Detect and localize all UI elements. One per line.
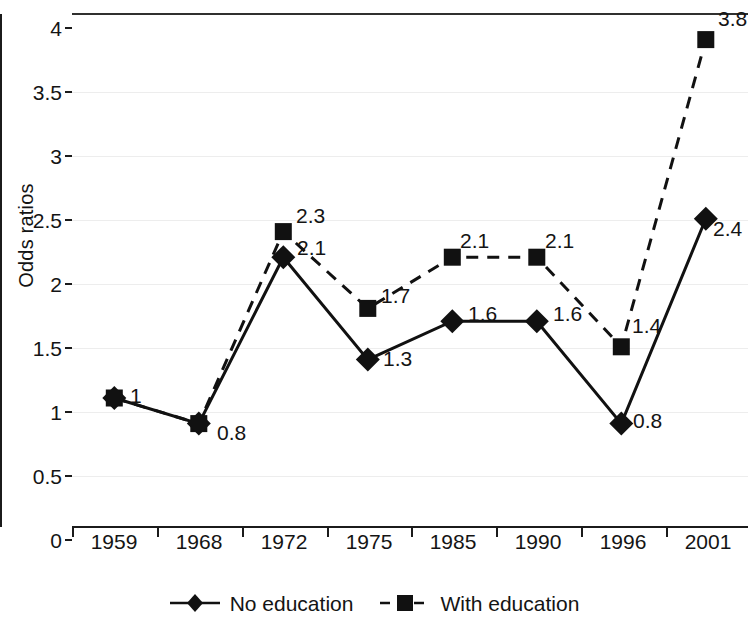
point-label-with-education-1975: 1.7 xyxy=(381,285,410,306)
point-label-with-education-1990: 2.1 xyxy=(545,230,574,251)
x-tick-mark-7 xyxy=(666,527,668,537)
legend-item-no-education[interactable]: No education xyxy=(169,592,354,614)
y-tick-label-1_5: 1.5 xyxy=(33,338,62,359)
y-tick-label-2_5: 2.5 xyxy=(33,210,62,231)
y-tick-label-0_5: 0.5 xyxy=(33,466,62,487)
point-label-no-education-1959: 1 xyxy=(130,385,142,406)
gridline-3_5 xyxy=(72,92,748,93)
y-tick-label-3: 3 xyxy=(50,146,62,167)
x-tick-mark-2 xyxy=(242,527,244,537)
x-tick-label-1959: 1959 xyxy=(91,531,138,552)
gridline-3 xyxy=(72,156,748,157)
x-tick-label-1990: 1990 xyxy=(515,531,562,552)
x-tick-label-1996: 1996 xyxy=(600,531,647,552)
legend-label-no-education: No education xyxy=(230,593,354,614)
x-tick-mark-5 xyxy=(496,527,498,537)
point-label-no-education-1972: 2.1 xyxy=(297,237,326,258)
gridline-0_5 xyxy=(72,476,748,477)
y-tick-label-2: 2 xyxy=(50,274,62,295)
point-label-with-education-1972: 2.3 xyxy=(296,205,325,226)
point-label-with-education-1996: 1.4 xyxy=(632,315,661,336)
point-label-no-education-1985: 1.6 xyxy=(468,303,497,324)
x-tick-label-1975: 1975 xyxy=(346,531,393,552)
point-label-with-education-1985: 2.1 xyxy=(460,230,489,251)
y-tick-label-3_5: 3.5 xyxy=(33,82,62,103)
x-tick-mark-0 xyxy=(72,527,74,537)
point-label-no-education-1975: 1.3 xyxy=(383,348,412,369)
gridline-2_5 xyxy=(72,220,748,221)
point-label-no-education-1990: 1.6 xyxy=(553,303,582,324)
x-tick-label-1985: 1985 xyxy=(430,531,477,552)
plot-area: 4 3.5 3 2.5 2 1.5 1 0.5 xyxy=(72,14,748,527)
y-tick-label-4: 4 xyxy=(50,18,62,39)
y-axis-line xyxy=(0,14,2,527)
x-tick-label-2001: 2001 xyxy=(685,531,732,552)
x-tick-mark-1 xyxy=(157,527,159,537)
x-tick-label-1972: 1972 xyxy=(261,531,308,552)
point-label-no-education-1968: 0.8 xyxy=(217,422,246,443)
x-tick-mark-6 xyxy=(581,527,583,537)
y-tick-label-1: 1 xyxy=(50,402,62,423)
square-marker-icon xyxy=(379,592,431,614)
point-label-with-education-2001: 3.8 xyxy=(718,8,747,29)
legend-label-with-education: With education xyxy=(440,593,579,614)
y-tick-label-0: 0 xyxy=(50,530,62,551)
chart-legend: No education With education xyxy=(0,583,748,623)
diamond-marker-icon xyxy=(169,592,221,614)
x-tick-mark-4 xyxy=(411,527,413,537)
x-tick-label-1968: 1968 xyxy=(176,531,223,552)
point-label-no-education-2001: 2.4 xyxy=(713,218,742,239)
x-tick-mark-3 xyxy=(327,527,329,537)
point-label-no-education-1996: 0.8 xyxy=(633,410,662,431)
odds-ratios-line-chart: Odds ratios 4 3.5 3 2.5 xyxy=(0,0,748,627)
y-axis-title: Odds ratios xyxy=(15,136,38,336)
legend-item-with-education[interactable]: With education xyxy=(379,592,579,614)
